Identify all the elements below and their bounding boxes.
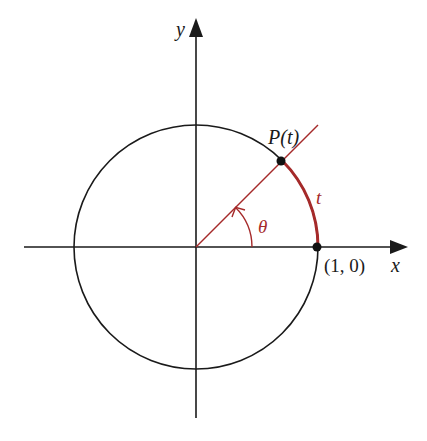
angle-theta-label: θ xyxy=(258,216,267,238)
start-point-label: (1, 0) xyxy=(324,255,365,277)
angle-theta-arc xyxy=(236,207,252,247)
terminal-ray xyxy=(196,125,318,247)
point-1-0 xyxy=(313,243,322,252)
point-p-t-label: P(t) xyxy=(268,126,299,149)
y-axis-label: y xyxy=(176,18,185,41)
x-axis-label: x xyxy=(391,254,400,277)
y-axis-arrow-icon xyxy=(189,18,203,37)
point-p-t xyxy=(277,157,286,166)
x-axis-arrow-icon xyxy=(390,240,408,254)
arc-t-label: t xyxy=(316,187,321,209)
unit-circle-diagram: y x P(t) t θ (1, 0) xyxy=(0,0,427,441)
diagram-canvas xyxy=(0,0,427,441)
arc-t xyxy=(282,161,318,247)
